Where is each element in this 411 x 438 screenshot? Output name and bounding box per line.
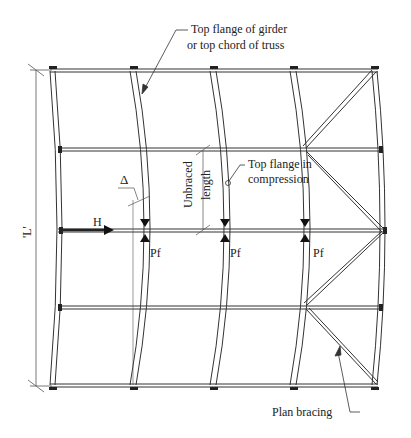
plan-bracing: [303, 70, 384, 384]
delta-dimension: [118, 188, 150, 385]
force-h-arrow: [62, 225, 114, 235]
label-pf-2: Pf: [230, 246, 241, 260]
label-h: H: [93, 215, 102, 229]
label-compression-1: Top flange in: [248, 157, 312, 171]
label-delta: Δ: [120, 172, 128, 187]
label-unbraced-1: Unbraced: [181, 161, 195, 208]
label-top-flange-1: Top flange of girder: [191, 22, 287, 36]
label-pf-1: Pf: [150, 246, 161, 260]
label-pf-3: Pf: [313, 246, 324, 260]
label-unbraced-2: length: [199, 170, 213, 200]
structural-diagram: Top flange of girder or top chord of tru…: [0, 0, 411, 438]
pf-arrowheads: [140, 219, 310, 242]
label-span-l: 'L': [20, 226, 34, 238]
label-compression-2: compression: [248, 172, 309, 186]
label-plan-bracing: Plan bracing: [272, 405, 332, 419]
label-top-flange-2: or top chord of truss: [187, 38, 285, 52]
leader-lines: [142, 30, 360, 412]
